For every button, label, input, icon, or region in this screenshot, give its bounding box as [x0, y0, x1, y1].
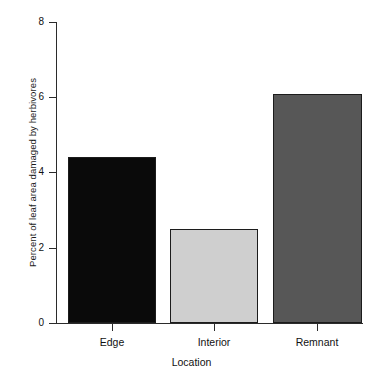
- x-tick-mark-remnant: [317, 324, 318, 331]
- x-tick-label-interior: Interior: [154, 336, 274, 348]
- x-tick-mark-interior: [214, 324, 215, 331]
- x-axis-label: Location: [0, 356, 383, 368]
- plot-area: [0, 0, 383, 391]
- x-tick-label-remnant: Remnant: [257, 336, 377, 348]
- bar-edge: [68, 157, 156, 323]
- bar-chart-figure: Percent of leaf area damaged by herbivor…: [0, 0, 383, 391]
- bar-remnant: [273, 94, 362, 324]
- x-tick-mark-edge: [112, 324, 113, 331]
- bar-interior: [170, 229, 258, 323]
